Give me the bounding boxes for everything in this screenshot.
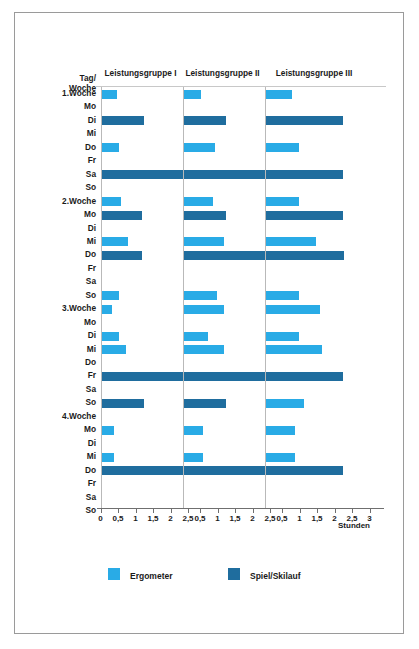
bar-3-25-ergometer bbox=[266, 426, 296, 435]
bar-3-16-ergometer bbox=[266, 305, 320, 314]
bar-3-0-ergometer bbox=[266, 90, 292, 99]
bar-3-2-spiel bbox=[266, 116, 343, 125]
panel-3-tick bbox=[370, 509, 371, 513]
legend-swatch-ergometer bbox=[108, 568, 120, 580]
bar-3-15-ergometer bbox=[266, 291, 299, 300]
panel-3-tick bbox=[335, 509, 336, 513]
panel-3-tick bbox=[300, 509, 301, 513]
bar-3-23-ergometer bbox=[266, 399, 305, 408]
panel-3-tick bbox=[282, 509, 283, 513]
bar-3-4-ergometer bbox=[266, 143, 299, 152]
legend-label-ergometer: Ergometer bbox=[130, 571, 173, 581]
bar-3-21-spiel bbox=[266, 372, 343, 381]
legend-swatch-spiel bbox=[228, 568, 240, 580]
bar-3-8-ergometer bbox=[266, 197, 299, 206]
bar-3-11-ergometer bbox=[266, 237, 317, 246]
panel-3-tick bbox=[317, 509, 318, 513]
bar-3-6-spiel bbox=[266, 170, 343, 179]
bar-3-18-ergometer bbox=[266, 332, 299, 341]
bar-3-9-spiel bbox=[266, 211, 343, 220]
bar-3-27-ergometer bbox=[266, 453, 296, 462]
x-axis-unit-label: Stunden bbox=[338, 521, 370, 530]
panel-3-tick bbox=[352, 509, 353, 513]
panel-3-baseline bbox=[255, 508, 384, 509]
legend-label-spiel: Spiel/Skilauf bbox=[250, 571, 301, 581]
bar-3-12-spiel bbox=[266, 251, 345, 260]
chart-sheet: Tag/WocheLeistungsgruppe ILeistungsgrupp… bbox=[0, 0, 419, 649]
panel-3: 0,511,522,53 bbox=[0, 0, 419, 649]
bar-3-28-spiel bbox=[266, 466, 343, 475]
bar-3-19-ergometer bbox=[266, 345, 322, 354]
